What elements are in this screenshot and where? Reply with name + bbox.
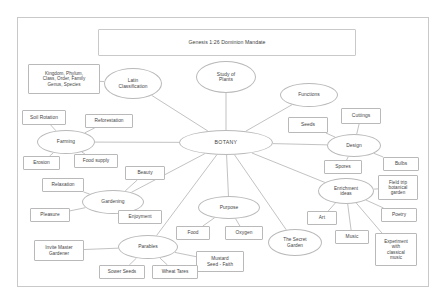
node-label: Beauty <box>128 170 162 175</box>
node-label: Design <box>330 143 378 148</box>
node-label: BOTANY <box>182 140 270 146</box>
node-sower[interactable]: Sower Seeds <box>99 265 145 279</box>
node-label: Study of Plants <box>199 72 253 83</box>
node-label: Experiment with classical music <box>378 239 414 260</box>
node-art[interactable]: Art <box>307 211 337 225</box>
node-label: Invite Master Gardener <box>37 245 81 256</box>
node-foodsupply[interactable]: Food supply <box>74 154 118 168</box>
node-label: Wheat Tares <box>155 269 195 274</box>
node-functions[interactable]: Functions <box>280 83 338 107</box>
node-label: Music <box>338 234 366 239</box>
mind-map-canvas: Genesis 1:26 Dominion MandateKingdom, Ph… <box>0 0 448 306</box>
node-label: Art <box>310 215 334 220</box>
node-relaxation[interactable]: Relaxation <box>42 178 84 192</box>
node-label: Genesis 1:26 Dominion Mandate <box>101 40 353 46</box>
node-label: Cuttings <box>344 113 378 118</box>
node-erosion[interactable]: Erosion <box>23 156 60 170</box>
node-label: Reforestation <box>88 118 130 123</box>
node-mustard[interactable]: Mustard Seed - Faith <box>196 251 244 272</box>
node-design[interactable]: Design <box>327 134 381 157</box>
node-enrichment[interactable]: Enrichment ideas <box>318 178 374 204</box>
node-soil[interactable]: Soil Rotation <box>22 110 66 125</box>
node-label: Relaxation <box>45 182 81 187</box>
node-purpose[interactable]: Purpose <box>198 196 260 219</box>
node-seeds[interactable]: Seeds <box>288 117 328 133</box>
node-bulbs[interactable]: Bulbs <box>383 157 419 171</box>
node-label: Poetry <box>384 212 414 217</box>
node-botany[interactable]: BOTANY <box>179 130 273 155</box>
node-label: Gardening <box>85 199 141 204</box>
node-fieldtrip[interactable]: Field trip botanical garden <box>378 175 418 200</box>
node-pleasure[interactable]: Pleasure <box>30 208 70 222</box>
node-study[interactable]: Study of Plants <box>196 61 256 93</box>
node-label: Functions <box>283 92 335 97</box>
node-label: Food supply <box>77 158 115 163</box>
node-cuttings[interactable]: Cuttings <box>341 108 381 124</box>
node-label: Purpose <box>201 205 257 210</box>
node-secretgarden[interactable]: The Secret Garden <box>268 229 322 256</box>
node-label: Mustard Seed - Faith <box>199 256 241 267</box>
node-reforest[interactable]: Reforestation <box>85 114 133 128</box>
node-music[interactable]: Music <box>335 230 369 244</box>
node-label: Kingdom, Phylum, Class, Order, Family Ge… <box>31 71 97 86</box>
node-farming[interactable]: Farming <box>37 130 95 154</box>
node-label: Food <box>179 230 207 235</box>
node-label: Enjoyment <box>121 214 159 219</box>
node-label: Bulbs <box>386 161 416 166</box>
node-oxygen[interactable]: Oxygen <box>225 226 263 240</box>
node-enjoyment[interactable]: Enjoyment <box>118 210 162 224</box>
node-label: Oxygen <box>228 230 260 235</box>
node-taxonomy[interactable]: Kingdom, Phylum, Class, Order, Family Ge… <box>28 64 100 94</box>
node-label: Field trip botanical garden <box>381 180 415 195</box>
node-poetry[interactable]: Poetry <box>381 208 417 222</box>
node-label: Latin Classification <box>107 78 159 89</box>
node-label: Soil Rotation <box>25 115 63 120</box>
node-label: Pleasure <box>33 212 67 217</box>
node-wheat[interactable]: Wheat Tares <box>152 265 198 279</box>
node-beauty[interactable]: Beauty <box>125 166 165 180</box>
node-label: Erosion <box>26 160 57 165</box>
node-label: Parables <box>121 244 175 249</box>
node-food[interactable]: Food <box>176 226 210 240</box>
node-label: Spores <box>327 164 359 169</box>
node-label: Seeds <box>291 122 325 127</box>
node-latin[interactable]: Latin Classification <box>104 68 162 99</box>
node-label: Enrichment ideas <box>321 186 371 197</box>
node-parables[interactable]: Parables <box>118 235 178 259</box>
node-spores[interactable]: Spores <box>324 160 362 174</box>
node-experiment[interactable]: Experiment with classical music <box>375 233 417 266</box>
node-title[interactable]: Genesis 1:26 Dominion Mandate <box>98 29 356 56</box>
node-label: Farming <box>40 139 92 144</box>
node-label: Sower Seeds <box>102 269 142 274</box>
node-invite[interactable]: Invite Master Gardener <box>34 240 84 261</box>
node-label: The Secret Garden <box>271 237 319 248</box>
